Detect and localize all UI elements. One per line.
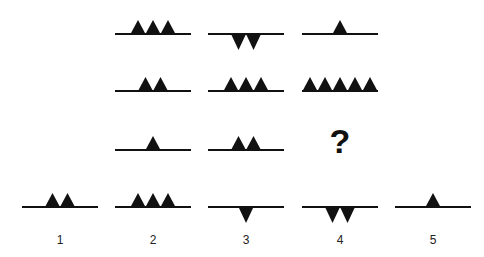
option-label-1: 1 [22, 233, 98, 247]
option-1-svg [22, 187, 98, 227]
up-triangle-icon [363, 77, 378, 91]
matrix-cell-r3-c1-svg [115, 130, 191, 170]
up-triangle-icon [254, 77, 269, 91]
up-triangle-icon [131, 193, 146, 207]
up-triangle-icon [239, 77, 254, 91]
down-triangle-icon [239, 207, 254, 223]
matrix-cell-r3-c2 [208, 130, 284, 170]
up-triangle-icon [146, 20, 161, 34]
up-triangle-icon [146, 136, 161, 150]
matrix-cell-r2-c1 [115, 71, 191, 111]
matrix-cell-r1-c3-svg [302, 14, 378, 54]
missing-cell-question-mark: ? [302, 122, 378, 161]
matrix-cell-r2-c2 [208, 71, 284, 111]
matrix-cell-r1-c1 [115, 14, 191, 54]
matrix-cell-r1-c3 [302, 14, 378, 54]
up-triangle-icon [131, 20, 146, 34]
up-triangle-icon [333, 20, 348, 34]
option-4 [302, 187, 378, 227]
up-triangle-icon [303, 77, 318, 91]
down-triangle-icon [340, 207, 355, 223]
option-label-5: 5 [395, 233, 471, 247]
matrix-cell-r2-c3 [302, 71, 378, 111]
up-triangle-icon [153, 77, 168, 91]
option-3-svg [208, 187, 284, 227]
up-triangle-icon [45, 193, 60, 207]
down-triangle-icon [231, 34, 246, 50]
down-triangle-icon [246, 34, 261, 50]
up-triangle-icon [426, 193, 441, 207]
matrix-cell-r1-c2-svg [208, 14, 284, 54]
up-triangle-icon [333, 77, 348, 91]
up-triangle-icon [231, 136, 246, 150]
matrix-cell-r2-c3-svg [302, 71, 378, 111]
option-label-3: 3 [208, 233, 284, 247]
matrix-cell-r3-c1 [115, 130, 191, 170]
matrix-cell-r2-c1-svg [115, 71, 191, 111]
option-4-svg [302, 187, 378, 227]
down-triangle-icon [325, 207, 340, 223]
option-2-svg [115, 187, 191, 227]
option-5-svg [395, 187, 471, 227]
matrix-cell-r1-c2 [208, 14, 284, 54]
up-triangle-icon [138, 77, 153, 91]
option-label-2: 2 [115, 233, 191, 247]
up-triangle-icon [348, 77, 363, 91]
matrix-cell-r3-c2-svg [208, 130, 284, 170]
option-5 [395, 187, 471, 227]
up-triangle-icon [60, 193, 75, 207]
up-triangle-icon [161, 193, 176, 207]
matrix-cell-r1-c1-svg [115, 14, 191, 54]
option-3 [208, 187, 284, 227]
option-1 [22, 187, 98, 227]
up-triangle-icon [161, 20, 176, 34]
up-triangle-icon [318, 77, 333, 91]
option-label-4: 4 [302, 233, 378, 247]
up-triangle-icon [246, 136, 261, 150]
up-triangle-icon [224, 77, 239, 91]
option-2 [115, 187, 191, 227]
up-triangle-icon [146, 193, 161, 207]
matrix-cell-r2-c2-svg [208, 71, 284, 111]
